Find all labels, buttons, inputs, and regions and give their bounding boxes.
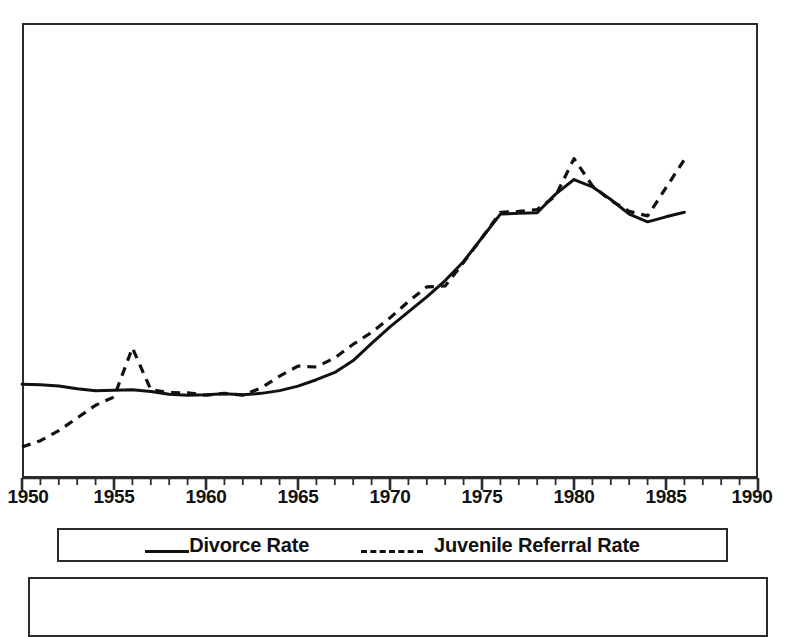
x-tick-label: 1960: [185, 486, 226, 508]
x-tick-label: 1990: [731, 486, 772, 508]
legend-entry-juvenile-referral-rate: Juvenile Referral Rate: [361, 534, 640, 557]
x-tick-label: 1975: [461, 486, 502, 508]
caption-box: [28, 577, 768, 637]
legend-entry-divorce-rate: Divorce Rate: [145, 534, 309, 557]
solid-line-swatch-icon: [145, 550, 189, 553]
legend-label-juvenile-referral-rate: Juvenile Referral Rate: [434, 534, 640, 557]
x-tick-label: 1970: [369, 486, 410, 508]
x-tick-label: 1985: [645, 486, 686, 508]
plot-frame: [22, 23, 758, 478]
legend-box: Divorce Rate Juvenile Referral Rate: [57, 528, 728, 562]
x-axis-tick-labels: 195019551960196519701975198019851990: [0, 486, 796, 510]
x-tick-label: 1950: [7, 486, 48, 508]
legend-label-divorce-rate: Divorce Rate: [189, 534, 309, 557]
x-tick-label: 1955: [93, 486, 134, 508]
dashed-line-swatch-icon: [361, 550, 423, 553]
x-tick-label: 1980: [553, 486, 594, 508]
x-tick-label: 1965: [277, 486, 318, 508]
